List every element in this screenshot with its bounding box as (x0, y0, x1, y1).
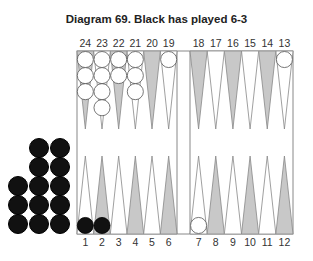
white-checker (127, 68, 143, 84)
borne-off-black-checker (30, 196, 49, 215)
point-label-24: 24 (77, 37, 94, 49)
borne-off-black-checker (51, 177, 70, 196)
borne-off-black-checker (9, 177, 28, 196)
white-checker (191, 217, 207, 233)
point-label-18: 18 (190, 37, 207, 49)
borne-off-black-checker (51, 158, 70, 177)
point-label-8: 8 (207, 236, 224, 248)
white-checker (94, 100, 110, 116)
point-label-9: 9 (224, 236, 241, 248)
point-label-17: 17 (207, 37, 224, 49)
white-checker (94, 52, 110, 68)
point-label-12: 12 (276, 236, 293, 248)
black-checker (77, 217, 93, 233)
point-label-10: 10 (242, 236, 259, 248)
point-label-6: 6 (160, 236, 177, 248)
borne-off-black-checker (30, 158, 49, 177)
black-checker (94, 217, 110, 233)
point-label-5: 5 (144, 236, 161, 248)
point-label-23: 23 (94, 37, 111, 49)
borne-off-black-checker (30, 177, 49, 196)
white-checker (276, 52, 292, 68)
white-checker (127, 84, 143, 100)
borne-off-black-checker (51, 196, 70, 215)
white-checker (77, 52, 93, 68)
white-checker (161, 52, 177, 68)
borne-off-black-checker (9, 196, 28, 215)
point-label-20: 20 (144, 37, 161, 49)
white-checker (77, 84, 93, 100)
borne-off-black-checker (30, 215, 49, 234)
white-checker (94, 68, 110, 84)
white-checker (94, 84, 110, 100)
point-label-1: 1 (77, 236, 94, 248)
point-label-16: 16 (224, 37, 241, 49)
white-checker (127, 52, 143, 68)
point-label-22: 22 (110, 37, 127, 49)
point-label-13: 13 (276, 37, 293, 49)
white-checker (111, 52, 127, 68)
borne-off-black-checker (51, 215, 70, 234)
point-label-2: 2 (94, 236, 111, 248)
point-label-21: 21 (127, 37, 144, 49)
point-label-14: 14 (259, 37, 276, 49)
borne-off-black-checker (30, 139, 49, 158)
white-checker (111, 68, 127, 84)
point-label-19: 19 (160, 37, 177, 49)
point-label-7: 7 (190, 236, 207, 248)
point-label-15: 15 (242, 37, 259, 49)
white-checker (77, 68, 93, 84)
borne-off-black-checker (51, 139, 70, 158)
borne-off-black-checker (9, 215, 28, 234)
point-label-4: 4 (127, 236, 144, 248)
point-label-11: 11 (259, 236, 276, 248)
point-label-3: 3 (110, 236, 127, 248)
